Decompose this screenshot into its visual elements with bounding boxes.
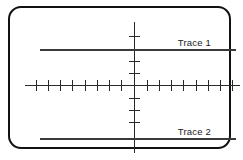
axis-tick-horizontal [121,80,122,91]
axis-tick-horizontal [60,80,61,91]
axis-tick-vertical [129,73,140,74]
axis-tick-horizontal [159,80,160,91]
vertical-axis [134,22,135,153]
axis-tick-horizontal [36,80,37,91]
axis-tick-horizontal [183,80,184,91]
axis-tick-horizontal [109,80,110,91]
axis-tick-vertical [129,122,140,123]
axis-tick-horizontal [147,80,148,91]
axis-tick-vertical [129,110,140,111]
axis-tick-horizontal [220,80,221,91]
axis-tick-horizontal [85,80,86,91]
axis-tick-horizontal [48,80,49,91]
axis-tick-horizontal [208,80,209,91]
axis-tick-horizontal [97,80,98,91]
axis-tick-vertical [129,36,140,37]
axis-tick-vertical [129,98,140,99]
axis-tick-horizontal [171,80,172,91]
trace-2-label: Trace 2 [178,126,211,137]
axis-tick-horizontal [196,80,197,91]
axis-tick-vertical [129,61,140,62]
waveform-trace-1 [40,49,236,51]
instrument-bezel: Trace 1 Trace 2 [8,6,231,149]
axis-tick-horizontal [72,80,73,91]
trace-1-label: Trace 1 [178,37,211,48]
oscilloscope-screenshot: Trace 1 Trace 2 [0,0,243,160]
waveform-trace-2 [40,138,236,140]
axis-tick-horizontal [232,80,233,91]
